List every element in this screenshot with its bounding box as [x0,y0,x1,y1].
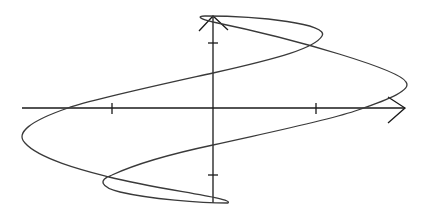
plot-canvas [0,0,426,216]
